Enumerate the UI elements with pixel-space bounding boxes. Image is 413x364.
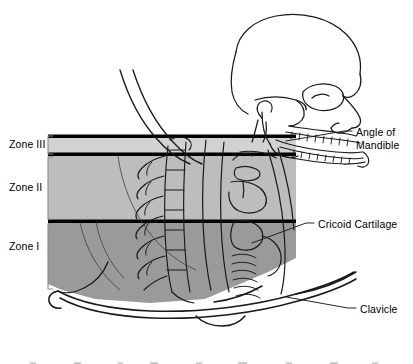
nasal-spine bbox=[331, 123, 339, 128]
angle-of-mandible-line-1: Angle of bbox=[356, 126, 395, 138]
cricoid-cartilage-label: Cricoid Cartilage bbox=[318, 218, 397, 231]
neck-zones-illustration bbox=[0, 0, 413, 364]
temporal-line bbox=[231, 52, 248, 114]
mental-protuberance bbox=[358, 152, 369, 167]
zone-1-label: Zone I bbox=[9, 240, 39, 253]
frontal-bone bbox=[343, 74, 361, 97]
zone-rule-2-1 bbox=[48, 220, 296, 224]
orbit-rim bbox=[303, 84, 344, 111]
zygomatic-body bbox=[289, 100, 304, 126]
clavicle-medial-end bbox=[49, 291, 61, 308]
nasal-bone bbox=[343, 96, 361, 128]
external-auditory-meatus bbox=[257, 101, 272, 118]
clavicle-label: Clavicle bbox=[360, 303, 398, 316]
cranial-vault-outline bbox=[236, 14, 360, 74]
zone-rule-top bbox=[48, 135, 296, 139]
angle-of-mandible-label: Angle of Mandible bbox=[356, 126, 413, 151]
zone-3-label: Zone III bbox=[9, 138, 45, 151]
orbit-inner bbox=[312, 94, 329, 98]
zone-2-label: Zone II bbox=[9, 181, 42, 194]
angle-of-mandible-line-2: Mandible bbox=[356, 139, 399, 151]
zygomatic-arch bbox=[255, 97, 306, 110]
leader-clavicle bbox=[286, 297, 356, 308]
zone-bands bbox=[48, 135, 296, 304]
figure-canvas: Zone III Zone II Zone I Angle of Mandibl… bbox=[0, 0, 413, 364]
